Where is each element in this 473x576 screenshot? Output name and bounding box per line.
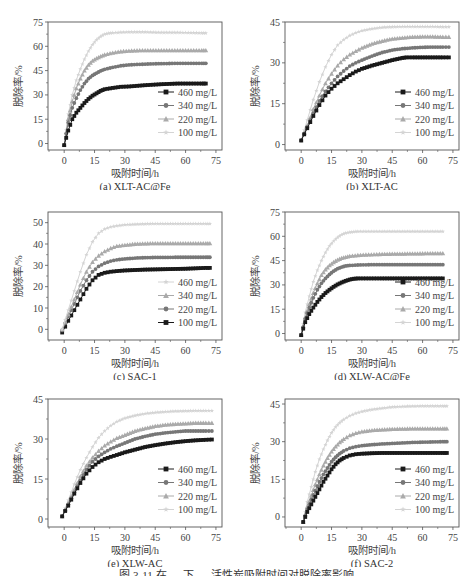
y-tick-label: 45 [33,65,43,76]
x-tick-label: 75 [448,155,458,166]
x-tick-label: 30 [120,345,130,356]
chart-panel-e: 015304501530456075脱除率/%吸附时间/h(e) XLW-AC4… [0,377,236,567]
chart-svg: 015304501530456075脱除率/%吸附时间/h(e) XLW-AC4… [0,377,236,567]
x-tick-label: 75 [211,155,221,166]
legend-label: 220 mg/L [415,114,454,125]
x-tick-label: 45 [387,532,397,543]
x-tick-label: 60 [181,155,191,166]
plot-area [299,24,451,142]
y-tick-label: 45 [270,399,280,410]
x-tick-label: 75 [211,532,221,543]
chart-panel-d: 0153045607501530456075脱除率/%吸附时间/h(d) XLW… [237,190,473,380]
legend-label: 340 mg/L [415,290,454,301]
y-tick-label: 0 [275,139,280,150]
y-tick-label: 0 [38,324,43,335]
y-tick-label: 30 [33,260,43,271]
y-tick-label: 30 [270,57,280,68]
x-tick-label: 0 [299,532,304,543]
legend-label: 100 mg/L [178,504,217,515]
y-tick-label: 15 [33,114,43,125]
y-tick-label: 30 [33,434,43,445]
legend-label: 340 mg/L [178,477,217,488]
x-tick-label: 75 [448,532,458,543]
legend-label: 220 mg/L [178,491,217,502]
legend-label: 100 mg/L [415,127,454,138]
legend: 460 mg/L340 mg/L220 mg/L100 mg/L [158,464,217,516]
x-tick-label: 15 [327,532,337,543]
y-tick-label: 75 [270,207,280,218]
chart-svg: 0153045607501530456075脱除率/%吸附时间/h(a) XLT… [0,0,236,190]
x-tick-label: 60 [181,532,191,543]
chart-svg: 0153045607501530456075脱除率/%吸附时间/h(d) XLW… [237,190,473,380]
x-tick-label: 45 [150,532,160,543]
y-tick-label: 45 [270,17,280,28]
x-tick-label: 45 [150,155,160,166]
y-tick-label: 0 [38,138,43,149]
x-tick-label: 15 [90,532,100,543]
x-tick-label: 60 [418,532,428,543]
x-tick-label: 30 [357,532,367,543]
y-tick-label: 0 [275,328,280,339]
y-tick-label: 45 [33,394,43,405]
legend-label: 340 mg/L [178,100,217,111]
y-tick-label: 75 [33,17,43,28]
x-tick-label: 75 [211,345,221,356]
legend-label: 460 mg/L [415,464,454,475]
x-axis-label: 吸附时间/h [348,357,397,369]
panel-title: (a) XLT-AC@Fe [99,181,170,190]
legend-label: 220 mg/L [415,304,454,315]
x-axis-label: 吸附时间/h [348,544,397,556]
y-tick-label: 10 [33,303,43,314]
y-tick-label: 15 [33,474,43,485]
legend: 460 mg/L340 mg/L220 mg/L100 mg/L [395,277,454,329]
legend: 460 mg/L340 mg/L220 mg/L100 mg/L [158,277,217,329]
x-tick-label: 15 [90,155,100,166]
y-axis-label: 脱除率/% [249,442,261,484]
x-axis-label: 吸附时间/h [111,544,160,556]
x-axis-label: 吸附时间/h [111,357,160,369]
x-tick-label: 45 [387,345,397,356]
x-tick-label: 0 [299,345,304,356]
x-tick-label: 45 [387,155,397,166]
y-axis-label: 脱除率/% [12,255,24,297]
chart-panel-a: 0153045607501530456075脱除率/%吸附时间/h(a) XLT… [0,0,236,190]
legend-label: 460 mg/L [415,87,454,98]
chart-panel-b: 015304501530456075脱除率/%吸附时间/h(b) XLT-AC4… [237,0,473,190]
x-tick-label: 30 [357,155,367,166]
y-tick-label: 20 [33,281,43,292]
x-tick-label: 15 [327,345,337,356]
x-tick-label: 0 [299,155,304,166]
y-axis-label: 脱除率/% [249,255,261,297]
legend: 460 mg/L340 mg/L220 mg/L100 mg/L [395,464,454,516]
y-tick-label: 30 [33,89,43,100]
legend-label: 460 mg/L [178,464,217,475]
chart-svg: 015304501530456075脱除率/%吸附时间/h(f) SAC-246… [237,377,473,567]
x-tick-label: 30 [357,345,367,356]
y-tick-label: 15 [270,98,280,109]
x-tick-label: 30 [120,532,130,543]
x-axis-label: 吸附时间/h [111,167,160,179]
y-tick-label: 40 [33,239,43,250]
chart-svg: 0102030405001530456075脱除率/%吸附时间/h(c) SAC… [0,190,236,380]
x-tick-label: 60 [418,155,428,166]
x-tick-label: 15 [327,155,337,166]
x-axis-label: 吸附时间/h [348,167,397,179]
chart-panel-c: 0102030405001530456075脱除率/%吸附时间/h(c) SAC… [0,190,236,380]
y-axis-label: 脱除率/% [12,442,24,484]
x-tick-label: 0 [62,532,67,543]
y-tick-label: 15 [270,474,280,485]
panel-title: (b) XLT-AC [346,181,397,190]
legend-label: 340 mg/L [178,290,217,301]
y-tick-label: 15 [270,304,280,315]
chart-svg: 015304501530456075脱除率/%吸附时间/h(b) XLT-AC4… [237,0,473,190]
legend-label: 220 mg/L [415,491,454,502]
legend-label: 340 mg/L [415,100,454,111]
legend-label: 100 mg/L [178,127,217,138]
x-tick-label: 60 [418,345,428,356]
y-tick-label: 45 [270,255,280,266]
legend-label: 220 mg/L [178,304,217,315]
legend-label: 100 mg/L [415,504,454,515]
legend-label: 460 mg/L [178,277,217,288]
y-tick-label: 50 [33,217,43,228]
legend-label: 460 mg/L [415,277,454,288]
